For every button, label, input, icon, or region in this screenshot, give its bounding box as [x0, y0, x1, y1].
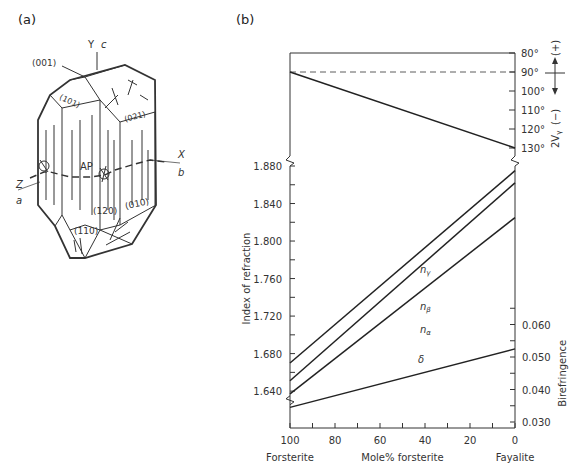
left-tick-label: 1.840: [253, 199, 282, 210]
right-axis-title: Birefringence: [557, 340, 568, 407]
series-line-δ: [290, 349, 515, 408]
left-tick-label: 1.880: [253, 161, 282, 172]
right-tick-label: 0.040: [522, 385, 551, 396]
x-left-end-label: Forsterite: [266, 452, 314, 463]
series-label: nβ: [420, 301, 431, 314]
left-axis-title: Index of refraction: [241, 233, 252, 325]
x-tick-label: 60: [374, 435, 387, 446]
right-tick-label: 0.030: [522, 417, 551, 428]
series-line-nα: [290, 218, 515, 394]
x-tick-label: 40: [419, 435, 432, 446]
x-axis-title: Mole% forsterite: [361, 452, 443, 463]
positive-sign-label: (+): [550, 40, 561, 56]
top-tick-label: 100°: [521, 86, 545, 97]
top-panel-frame: [290, 53, 515, 156]
series-line-nβ: [290, 183, 515, 381]
series-label: δ: [418, 354, 424, 365]
left-tick-label: 1.680: [253, 349, 282, 360]
x-right-end-label: Fayalite: [496, 452, 535, 463]
top-tick-label: 80°: [521, 48, 539, 59]
left-tick-label: 1.760: [253, 274, 282, 285]
series-line-nγ: [290, 171, 515, 363]
x-tick-label: 80: [329, 435, 342, 446]
top-tick-label: 130°: [521, 143, 545, 154]
x-tick-label: 20: [464, 435, 477, 446]
top-tick-label: 110°: [521, 105, 545, 116]
top-tick-label: 120°: [521, 124, 545, 135]
left-tick-label: 1.640: [253, 386, 282, 397]
right-tick-label: 0.060: [522, 320, 551, 331]
olivine-optics-chart: 80°90°100°110°120°130°(+)(−)2Vγ1.6401.68…: [0, 0, 584, 475]
negative-sign-label: (−): [550, 109, 561, 125]
top-tick-label: 90°: [521, 67, 539, 78]
x-tick-label: 100: [280, 435, 299, 446]
right-tick-label: 0.050: [522, 352, 551, 363]
left-tick-label: 1.720: [253, 311, 282, 322]
series-2v-line: [290, 72, 515, 148]
x-tick-label: 0: [512, 435, 518, 446]
left-tick-label: 1.800: [253, 236, 282, 247]
2v-axis-label: 2Vγ: [550, 131, 563, 148]
series-label: nα: [420, 324, 431, 337]
